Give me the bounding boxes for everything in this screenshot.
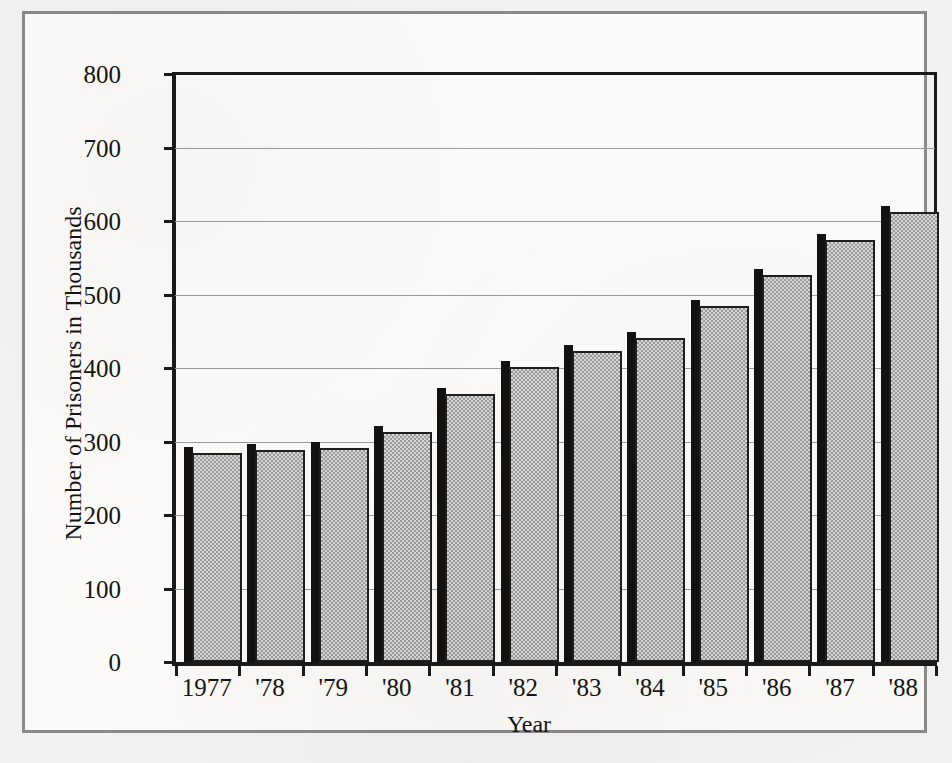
- bar-body: [699, 306, 749, 662]
- x-axis-tick-label: '87: [808, 674, 871, 702]
- y-axis-tick: [164, 147, 175, 150]
- y-axis-tick-label: 800: [51, 62, 121, 87]
- bar-body: [319, 448, 369, 663]
- bar-body: [382, 432, 432, 662]
- bar: [184, 447, 242, 662]
- y-axis-tick: [164, 441, 175, 444]
- x-axis-tick-label: '85: [682, 674, 745, 702]
- x-axis-tick-label: '80: [365, 674, 428, 702]
- chart-frame: Number of Prisoners in Thousands Year 01…: [22, 11, 927, 733]
- bar: [501, 361, 559, 662]
- x-axis-tick-label: '81: [428, 674, 491, 702]
- x-axis-tick: [935, 666, 938, 676]
- bar-body: [889, 212, 939, 662]
- x-axis-tick-label: '84: [618, 674, 681, 702]
- x-axis-tick-label: '88: [872, 674, 935, 702]
- bar: [437, 388, 495, 662]
- bar: [817, 234, 875, 662]
- y-axis-tick-label: 200: [51, 503, 121, 528]
- y-axis-tick: [164, 73, 175, 76]
- gridline: [175, 148, 935, 149]
- y-axis-tick-label: 700: [51, 136, 121, 161]
- bar-body: [509, 367, 559, 662]
- y-axis-tick: [164, 294, 175, 297]
- y-axis-tick-label: 300: [51, 430, 121, 455]
- y-axis-tick-label: 500: [51, 283, 121, 308]
- y-axis-tick-label: 0: [51, 650, 121, 675]
- y-axis-tick: [164, 661, 175, 664]
- scanned-page: Number of Prisoners in Thousands Year 01…: [0, 0, 952, 763]
- x-axis-tick-label: 1977: [175, 674, 238, 702]
- bar-body: [635, 338, 685, 662]
- plot-area: 0100200300400500600700800: [175, 74, 935, 662]
- bar-body: [572, 351, 622, 662]
- bar: [247, 444, 305, 662]
- x-axis-tick-label: '82: [492, 674, 555, 702]
- bar-body: [255, 450, 305, 662]
- y-axis-tick-label: 400: [51, 356, 121, 381]
- y-axis-tick-label: 600: [51, 209, 121, 234]
- y-axis-tick: [164, 514, 175, 517]
- bar: [754, 269, 812, 662]
- y-axis-tick: [164, 367, 175, 370]
- gridline: [175, 221, 935, 222]
- bar-body: [445, 394, 495, 662]
- x-axis-title: Year: [25, 711, 952, 738]
- bar-body: [762, 275, 812, 662]
- bar: [374, 426, 432, 662]
- bar: [564, 345, 622, 662]
- x-axis-tick-label: '83: [555, 674, 618, 702]
- bar: [627, 332, 685, 662]
- y-axis-tick: [164, 588, 175, 591]
- bar: [311, 442, 369, 663]
- y-axis-tick: [164, 220, 175, 223]
- bar-body: [825, 240, 875, 662]
- bar: [691, 300, 749, 662]
- y-axis-tick-label: 100: [51, 577, 121, 602]
- x-axis-tick-label: '78: [238, 674, 301, 702]
- x-axis-title-text: Year: [507, 711, 551, 737]
- x-axis-tick-label: '86: [745, 674, 808, 702]
- bar-body: [192, 453, 242, 662]
- x-axis-tick-label: '79: [302, 674, 365, 702]
- bar: [881, 206, 939, 662]
